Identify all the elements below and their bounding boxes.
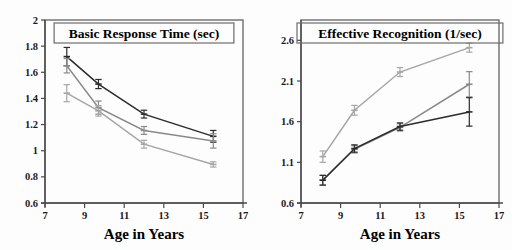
y-tick-label: 1.8	[25, 41, 38, 52]
x-tick-label: 9	[338, 210, 343, 221]
y-tick-label: 1.1	[281, 157, 294, 168]
y-tick-label: 1.4	[25, 93, 39, 104]
chart-svg-right: 0.61.11.62.12.67911131517Effective Recog…	[256, 0, 512, 250]
x-tick-label: 13	[415, 210, 426, 221]
x-tick-label: 7	[298, 210, 303, 221]
x-axis-title: Age in Years	[104, 226, 184, 242]
series-line	[323, 84, 470, 180]
series-series-dark	[320, 98, 473, 185]
x-axis-title: Age in Years	[360, 226, 440, 242]
x-tick-label: 11	[119, 210, 129, 221]
figure-container: 0.60.811.21.41.61.827911131517Basic Resp…	[0, 0, 512, 250]
x-tick-label: 7	[42, 210, 47, 221]
y-tick-label: 0.6	[25, 198, 38, 209]
x-tick-label: 11	[375, 210, 385, 221]
y-tick-label: 1	[33, 145, 38, 156]
y-tick-label: 1.6	[25, 67, 38, 78]
y-tick-label: 2	[33, 15, 38, 26]
chart-panel-basic-response-time: 0.60.811.21.41.61.827911131517Basic Resp…	[0, 0, 256, 250]
series-line	[323, 112, 470, 180]
x-tick-label: 15	[198, 210, 209, 221]
series-series-light	[320, 43, 473, 162]
panel-title: Effective Recognition (1/sec)	[318, 26, 481, 41]
y-tick-label: 0.8	[25, 171, 38, 182]
x-tick-label: 13	[159, 210, 170, 221]
series-series-light	[64, 85, 217, 167]
x-tick-label: 9	[82, 210, 87, 221]
series-line	[323, 48, 470, 157]
y-tick-label: 1.2	[25, 119, 38, 130]
y-tick-label: 2.1	[281, 76, 294, 87]
series-line	[67, 57, 214, 137]
x-tick-label: 15	[454, 210, 465, 221]
chart-panel-effective-recognition: 0.61.11.62.12.67911131517Effective Recog…	[256, 0, 512, 250]
x-tick-label: 17	[494, 210, 505, 221]
y-tick-label: 2.6	[281, 35, 294, 46]
panel-title: Basic Response Time (sec)	[69, 26, 220, 41]
y-tick-label: 0.6	[281, 198, 294, 209]
chart-svg-left: 0.60.811.21.41.61.827911131517Basic Resp…	[0, 0, 256, 250]
y-tick-label: 1.6	[281, 116, 294, 127]
x-tick-label: 17	[238, 210, 249, 221]
series-series-mid	[64, 59, 217, 149]
